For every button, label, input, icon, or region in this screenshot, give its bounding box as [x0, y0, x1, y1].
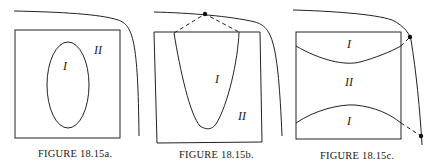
region-label-i-b: I	[214, 72, 220, 86]
caption-b: FIGURE 18.15b.	[179, 149, 254, 160]
contact-point-lower-c	[419, 134, 423, 138]
figure-c	[293, 10, 422, 145]
boundary-curve-c	[293, 10, 422, 145]
region-label-ii-c: II	[344, 75, 354, 89]
contact-point-b	[203, 12, 207, 16]
square-domain-a	[15, 30, 120, 138]
dashed-connector-lower-c	[401, 123, 421, 136]
caption-a: FIGURE 18.15a.	[38, 148, 112, 159]
square-domain-b	[154, 32, 262, 143]
region-label-i-a: I	[62, 59, 68, 73]
figure-a	[14, 11, 139, 138]
contact-point-upper-c	[408, 35, 412, 39]
region-label-ii-b: II	[237, 109, 247, 123]
region-label-ii-a: II	[93, 43, 103, 57]
region-label-i-bottom-c: I	[346, 114, 352, 128]
figure-panel: I II I II I II I	[0, 0, 436, 166]
caption-c: FIGURE 18.15c.	[320, 150, 394, 161]
region-i-ellipse-a	[47, 42, 89, 128]
region-i-u-curve-b	[174, 32, 239, 129]
region-label-i-top-c: I	[346, 37, 352, 51]
